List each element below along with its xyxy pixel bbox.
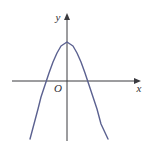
coordinate-plot-svg: y x O — [0, 0, 150, 145]
x-axis-label: x — [136, 82, 142, 94]
figure-background — [0, 0, 150, 145]
origin-label: O — [54, 82, 62, 94]
y-axis-label: y — [55, 11, 61, 23]
parabola-figure: y x O — [0, 0, 150, 145]
